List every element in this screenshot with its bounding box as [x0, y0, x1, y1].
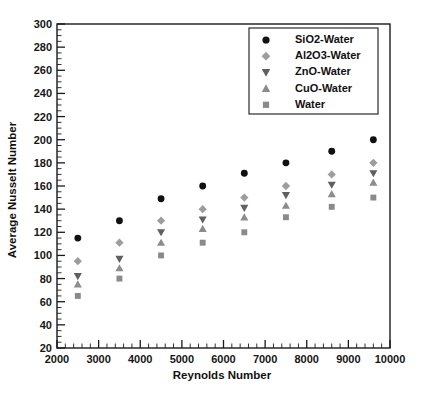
data-point — [328, 182, 336, 189]
data-point — [282, 202, 290, 209]
series-cuo-water — [74, 178, 378, 287]
y-tick-label: 40 — [40, 319, 52, 331]
scatter-plot: 2040608010012014016018020022024026028030… — [0, 0, 428, 393]
series-zno-water — [74, 170, 378, 280]
data-point — [240, 205, 248, 212]
chart-container: 2040608010012014016018020022024026028030… — [0, 0, 428, 393]
data-point — [283, 159, 290, 166]
x-tick-label: 2000 — [45, 353, 69, 365]
x-tick-label: 8000 — [295, 353, 319, 365]
data-point — [200, 240, 206, 246]
x-axis-title: Reynolds Number — [173, 369, 272, 381]
x-tick-label: 9000 — [336, 353, 360, 365]
x-tick-label: 7000 — [253, 353, 277, 365]
y-tick-label: 180 — [34, 157, 52, 169]
x-tick-label: 5000 — [170, 353, 194, 365]
legend-label-1: Al2O3-Water — [295, 49, 361, 61]
data-point — [370, 195, 376, 201]
data-point — [74, 235, 81, 242]
data-point — [328, 170, 336, 178]
data-point — [328, 148, 335, 155]
data-point — [282, 182, 290, 190]
data-point — [240, 213, 248, 220]
legend-marker-4 — [263, 102, 269, 108]
data-point — [283, 214, 289, 220]
data-point — [370, 136, 377, 143]
x-tick-label: 6000 — [211, 353, 235, 365]
data-point — [115, 264, 123, 271]
y-tick-label: 140 — [34, 203, 52, 215]
data-point — [75, 293, 81, 299]
y-tick-label: 60 — [40, 296, 52, 308]
data-point — [157, 239, 165, 246]
data-point — [282, 192, 290, 199]
y-tick-label: 100 — [34, 249, 52, 261]
data-point — [329, 204, 335, 210]
data-point — [116, 217, 123, 224]
series-al2o3-water — [74, 159, 378, 266]
data-point — [199, 225, 207, 232]
data-point — [328, 190, 336, 197]
legend-label-3: CuO-Water — [295, 82, 353, 94]
y-tick-label: 280 — [34, 41, 52, 53]
x-tick-label: 4000 — [128, 353, 152, 365]
legend-label-2: ZnO-Water — [295, 65, 352, 77]
data-point — [241, 170, 248, 177]
legend-label-0: SiO2-Water — [295, 33, 355, 45]
data-point — [369, 170, 377, 177]
data-point — [369, 178, 377, 185]
y-tick-label: 120 — [34, 226, 52, 238]
data-point — [74, 280, 82, 287]
y-tick-label: 200 — [34, 134, 52, 146]
y-axis-title: Average Nusselt Number — [6, 121, 18, 258]
legend-label-4: Water — [295, 98, 326, 110]
data-point — [199, 216, 207, 223]
y-tick-label: 260 — [34, 64, 52, 76]
data-point — [240, 193, 248, 201]
x-tick-label: 3000 — [86, 353, 110, 365]
data-point — [158, 252, 164, 258]
y-tick-label: 80 — [40, 273, 52, 285]
y-tick-label: 160 — [34, 180, 52, 192]
y-tick-label: 300 — [34, 18, 52, 30]
data-point — [115, 239, 123, 247]
legend-marker-0 — [262, 36, 269, 43]
data-point — [369, 159, 377, 167]
y-tick-label: 220 — [34, 111, 52, 123]
data-point — [199, 205, 207, 213]
data-points-group — [74, 136, 378, 299]
x-tick-label: 10000 — [375, 353, 406, 365]
data-point — [116, 276, 122, 282]
data-point — [157, 229, 165, 236]
data-point — [74, 273, 82, 280]
chart-legend: SiO2-WaterAl2O3-WaterZnO-WaterCuO-WaterW… — [249, 28, 378, 114]
data-point — [115, 256, 123, 263]
data-point — [199, 183, 206, 190]
data-point — [74, 257, 82, 265]
data-point — [158, 195, 165, 202]
data-point — [157, 217, 165, 225]
y-tick-label: 240 — [34, 87, 52, 99]
series-sio2-water — [74, 136, 376, 241]
data-point — [241, 229, 247, 235]
series-water — [75, 195, 376, 299]
